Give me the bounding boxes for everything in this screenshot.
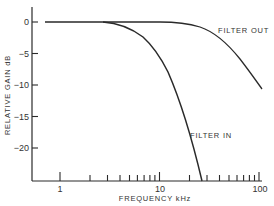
- x-tick-10: 10: [155, 184, 165, 194]
- series-filter-in: [103, 22, 202, 181]
- y-axis-label: RELATIVE GAIN dB: [3, 55, 12, 135]
- y-tick-0: 0: [24, 17, 29, 27]
- x-axis-label: FREQUENCY kHz: [119, 194, 191, 203]
- y-tick-labels: 0 −5 −10 −15 −20: [14, 17, 29, 153]
- frequency-response-chart: 0 −5 −10 −15 −20 RELATIVE GAIN dB 1 10 1…: [0, 0, 274, 206]
- x-tick-labels: 1 10 100: [57, 184, 267, 194]
- y-tick-5: −5: [19, 49, 29, 59]
- y-tick-10: −10: [14, 80, 29, 90]
- y-tick-20: −20: [14, 143, 29, 153]
- x-ticks: [60, 172, 259, 181]
- label-filter-in: FILTER IN: [190, 131, 232, 140]
- label-filter-out: FILTER OUT: [218, 26, 269, 35]
- y-ticks: [32, 22, 38, 148]
- y-tick-15: −15: [14, 112, 29, 122]
- x-tick-1: 1: [57, 184, 62, 194]
- x-tick-100: 100: [252, 184, 267, 194]
